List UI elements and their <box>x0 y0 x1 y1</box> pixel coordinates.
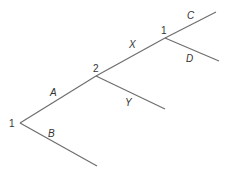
edge-b <box>20 123 97 166</box>
edge-label-b: B <box>48 128 55 139</box>
node-label-root: 1 <box>9 118 15 129</box>
tree-diagram: 1 2 1 A B X Y C D <box>0 0 228 177</box>
node-label-top: 1 <box>161 25 167 36</box>
edge-label-a: A <box>49 87 57 98</box>
edge-a <box>20 76 96 123</box>
node-label-2: 2 <box>93 63 99 74</box>
edge-label-y: Y <box>125 97 133 108</box>
edge-label-c: C <box>187 10 195 21</box>
edge-label-d: D <box>186 53 193 64</box>
edge-label-x: X <box>128 39 136 50</box>
